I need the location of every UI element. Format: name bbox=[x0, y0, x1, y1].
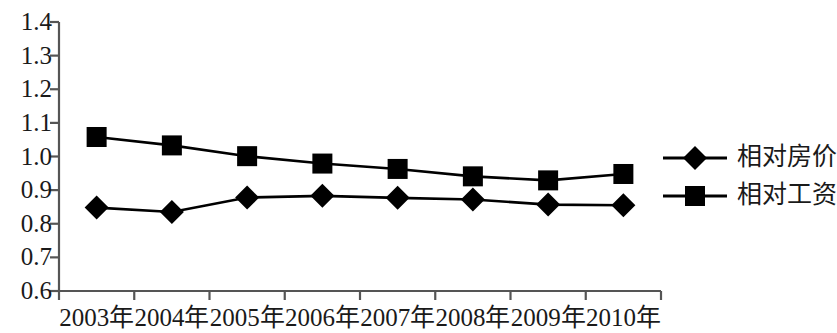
data-point-diamond-marker bbox=[683, 146, 707, 170]
data-series-group bbox=[85, 127, 636, 224]
y-axis-tick-label: 0.6 bbox=[0, 278, 52, 303]
x-axis-tick-label: 2010年 bbox=[568, 305, 678, 330]
data-point-diamond-marker bbox=[386, 186, 410, 210]
y-axis-tick-label: 0.7 bbox=[0, 244, 52, 269]
data-point-diamond-marker bbox=[85, 196, 109, 220]
chart-axes bbox=[59, 22, 661, 291]
data-point-diamond-marker bbox=[310, 184, 334, 208]
legend-item-label: 相对工资 bbox=[737, 182, 837, 207]
data-point-diamond-marker bbox=[461, 188, 485, 212]
data-point-square-marker bbox=[685, 186, 705, 206]
data-point-square-marker bbox=[463, 166, 483, 186]
data-point-diamond-marker bbox=[235, 186, 259, 210]
y-axis-tick-label: 1.0 bbox=[0, 144, 52, 169]
y-axis-tick-label: 1.1 bbox=[0, 110, 52, 135]
y-axis-tick-label: 0.8 bbox=[0, 211, 52, 236]
y-axis-tick-label: 0.9 bbox=[0, 177, 52, 202]
legend-markers bbox=[663, 146, 727, 206]
data-point-square-marker bbox=[237, 146, 257, 166]
data-point-diamond-marker bbox=[611, 193, 635, 217]
y-axis-tick-label: 1.2 bbox=[0, 76, 52, 101]
data-point-diamond-marker bbox=[536, 193, 560, 217]
y-axis-tick-label: 1.4 bbox=[0, 9, 52, 34]
legend-item-label: 相对房价 bbox=[737, 144, 837, 169]
data-point-square-marker bbox=[87, 127, 107, 147]
data-point-square-marker bbox=[613, 164, 633, 184]
data-point-square-marker bbox=[162, 135, 182, 155]
y-axis-tick-label: 1.3 bbox=[0, 43, 52, 68]
data-point-square-marker bbox=[538, 170, 558, 190]
x-axis-ticks bbox=[59, 291, 661, 300]
data-point-square-marker bbox=[312, 154, 332, 174]
data-point-square-marker bbox=[388, 159, 408, 179]
data-point-diamond-marker bbox=[160, 200, 184, 224]
